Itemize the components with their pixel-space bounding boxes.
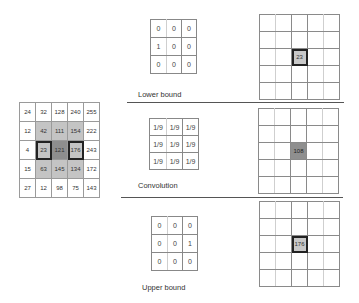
kernel-cell: 0	[168, 217, 183, 235]
output-cell	[324, 83, 340, 100]
convolution-label: Convolution	[138, 181, 178, 190]
kernel-cell: 1/9	[167, 136, 183, 153]
output-cell	[292, 15, 308, 32]
output-cell	[275, 126, 291, 143]
kernel-cell: 1	[183, 235, 198, 253]
lower-bound-label: Lower bound	[138, 90, 181, 99]
separator-line	[121, 197, 343, 198]
output-cell	[259, 160, 275, 177]
output-cell	[291, 177, 307, 194]
output-cell	[291, 160, 307, 177]
output-cell	[324, 15, 340, 32]
pixel-cell: 240	[68, 103, 84, 122]
output-cell	[260, 49, 276, 66]
output-cell	[260, 15, 276, 32]
output-cell	[275, 160, 291, 177]
result-cell: 176	[292, 236, 308, 253]
kernel-cell: 1/9	[150, 153, 167, 170]
pixel-cell-neighborhood: 111	[52, 122, 68, 141]
output-cell	[291, 109, 307, 126]
output-cell	[275, 109, 291, 126]
pixel-cell-upper-bound: 176	[68, 141, 84, 160]
output-cell	[308, 202, 324, 219]
result-cell: 108	[291, 143, 307, 160]
pixel-cell: 27	[20, 179, 36, 198]
pixel-cell: 243	[84, 141, 100, 160]
pixel-cell-neighborhood: 134	[68, 160, 84, 179]
output-cell	[307, 126, 323, 143]
output-cell	[323, 143, 339, 160]
output-cell	[276, 32, 292, 49]
kernel-cell: 0	[152, 235, 168, 253]
pixel-cell-neighborhood: 145	[52, 160, 68, 179]
kernel-cell: 1/9	[183, 153, 199, 170]
output-cell	[324, 202, 340, 219]
output-cell	[324, 32, 340, 49]
pixel-cell: 15	[20, 160, 36, 179]
output-cell	[292, 219, 308, 236]
pixel-cell: 12	[36, 179, 52, 198]
pixel-cell-center: 121	[52, 141, 68, 160]
output-cell	[308, 15, 324, 32]
output-cell	[276, 15, 292, 32]
output-cell	[307, 160, 323, 177]
upper-bound-output-grid: 176	[259, 201, 340, 287]
kernel-cell: 0	[168, 235, 183, 253]
output-cell	[307, 143, 323, 160]
output-cell	[276, 66, 292, 83]
pixel-cell-neighborhood: 154	[68, 122, 84, 141]
output-cell	[324, 236, 340, 253]
kernel-cell: 1/9	[150, 119, 167, 136]
kernel-cell: 0	[152, 217, 168, 235]
pixel-cell: 98	[52, 179, 68, 198]
pixel-cell: 172	[84, 160, 100, 179]
output-cell	[276, 219, 292, 236]
kernel-cell: 0	[167, 20, 182, 38]
pixel-cell-neighborhood: 63	[36, 160, 52, 179]
kernel-cell: 0	[168, 253, 183, 271]
output-cell	[291, 126, 307, 143]
kernel-cell: 0	[182, 38, 197, 56]
kernel-cell: 0	[167, 56, 182, 74]
output-cell	[292, 32, 308, 49]
lower-bound-output-grid: 23	[259, 14, 340, 100]
pixel-cell: 4	[20, 141, 36, 160]
separator-line	[127, 102, 344, 103]
pixel-cell: 128	[52, 103, 68, 122]
convolution-output-grid: 108	[258, 108, 339, 194]
pixel-cell: 12	[20, 122, 36, 141]
output-cell	[308, 32, 324, 49]
pixel-cell: 255	[84, 103, 100, 122]
output-cell	[308, 253, 324, 270]
output-cell	[324, 270, 340, 287]
output-cell	[276, 83, 292, 100]
output-cell	[276, 270, 292, 287]
input-pixel-grid: 24 32 128 240 255 12 42 111 154 222 4 23…	[19, 102, 100, 198]
output-cell	[308, 66, 324, 83]
output-cell	[260, 270, 276, 287]
kernel-cell: 1/9	[167, 153, 183, 170]
output-cell	[308, 49, 324, 66]
output-cell	[292, 66, 308, 83]
output-cell	[323, 177, 339, 194]
output-cell	[292, 253, 308, 270]
output-cell	[260, 219, 276, 236]
output-cell	[307, 177, 323, 194]
output-cell	[276, 253, 292, 270]
kernel-cell: 0	[183, 253, 198, 271]
output-cell	[308, 219, 324, 236]
output-cell	[276, 202, 292, 219]
kernel-cell: 0	[183, 217, 198, 235]
lower-bound-kernel: 0 0 0 1 0 0 0 0 0	[150, 19, 197, 74]
kernel-cell: 1/9	[150, 136, 167, 153]
output-cell	[260, 253, 276, 270]
upper-bound-kernel: 0 0 0 0 0 1 0 0 0	[151, 216, 198, 271]
pixel-cell: 222	[84, 122, 100, 141]
output-cell	[259, 143, 275, 160]
pixel-cell-lower-bound: 23	[36, 141, 52, 160]
kernel-cell: 1	[151, 38, 167, 56]
output-cell	[275, 143, 291, 160]
output-cell	[324, 253, 340, 270]
result-cell: 23	[292, 49, 308, 66]
pixel-cell: 143	[84, 179, 100, 198]
